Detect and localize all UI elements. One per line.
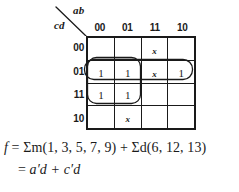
function-symbol: f xyxy=(4,140,8,155)
column-header-2: 11 xyxy=(141,20,169,35)
kmap-cell-r3c0 xyxy=(88,106,115,129)
kmap-cell-r3c3 xyxy=(168,106,195,129)
kmap-cell-r1c0: 1 xyxy=(88,60,115,83)
kmap-grid: x 1 1 x 1 1 1 x xyxy=(86,36,196,130)
plus-sign: + xyxy=(120,140,128,155)
row-header-2: 11 xyxy=(58,83,84,107)
table-row: 1 1 x 1 xyxy=(88,60,195,83)
cell-value: 1 xyxy=(178,68,184,79)
kmap-cell-r3c1: x xyxy=(114,106,141,129)
row-header-0: 00 xyxy=(58,36,84,60)
cell-value: 1 xyxy=(98,90,104,101)
kmap-cell-r1c2: x xyxy=(141,60,168,83)
equation-line-2: = a′d + c′d xyxy=(4,159,239,181)
row-headers: 00 01 11 10 xyxy=(58,36,84,130)
column-header-3: 10 xyxy=(169,20,197,35)
equations-block: f = Σm(1, 3, 5, 7, 9) + Σd(6, 12, 13) = … xyxy=(4,137,239,181)
row-variable-label: cd xyxy=(54,19,65,31)
kmap-cell-r2c1: 1 xyxy=(114,83,141,106)
kmap-cell-r0c1 xyxy=(114,38,141,61)
kmap-table: x 1 1 x 1 1 1 x xyxy=(87,37,195,129)
simplified-expression: a′d + c′d xyxy=(30,162,81,177)
kmap-cell-r0c3 xyxy=(168,38,195,61)
kmap-cell-r2c2 xyxy=(141,83,168,106)
sum-of-minterms: Σm(1, 3, 5, 7, 9) xyxy=(23,140,116,155)
equals-sign-2: = xyxy=(18,162,26,177)
row-header-1: 01 xyxy=(58,60,84,84)
cell-value: 1 xyxy=(98,68,104,79)
table-row: 1 1 xyxy=(88,83,195,106)
column-header-0: 00 xyxy=(86,20,114,35)
column-headers: 00 01 11 10 xyxy=(86,20,196,35)
sum-of-dontcares: Σd(6, 12, 13) xyxy=(132,140,207,155)
karnaugh-map-figure: ab cd 00 01 11 10 00 01 11 10 x 1 1 xyxy=(0,0,239,192)
cell-value: x xyxy=(152,47,157,56)
kmap-cell-r1c1: 1 xyxy=(114,60,141,83)
cell-value: 1 xyxy=(125,68,131,79)
row-header-3: 10 xyxy=(58,107,84,131)
kmap-cell-r2c3 xyxy=(168,83,195,106)
cell-value: x xyxy=(125,115,130,124)
kmap-cell-r1c3: 1 xyxy=(168,60,195,83)
cell-value: x xyxy=(152,70,157,79)
equals-sign-1: = xyxy=(12,140,20,155)
cell-value: 1 xyxy=(125,90,131,101)
table-row: x xyxy=(88,106,195,129)
kmap-cell-r0c0 xyxy=(88,38,115,61)
column-variable-label: ab xyxy=(73,4,84,16)
equation-line-1: f = Σm(1, 3, 5, 7, 9) + Σd(6, 12, 13) xyxy=(4,137,239,159)
kmap-cell-r3c2 xyxy=(141,106,168,129)
column-header-1: 01 xyxy=(114,20,142,35)
kmap-cell-r2c0: 1 xyxy=(88,83,115,106)
kmap-cell-r0c2: x xyxy=(141,38,168,61)
table-row: x xyxy=(88,38,195,61)
